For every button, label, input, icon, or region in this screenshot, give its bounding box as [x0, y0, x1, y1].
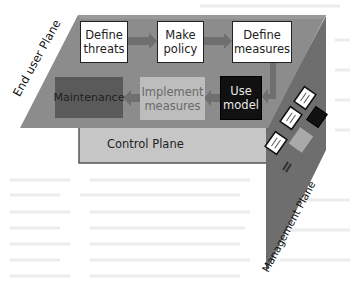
arrow-policy-measures: [204, 37, 225, 45]
arrow-measures-usemodel: [270, 63, 276, 99]
arrow-usemodel-implement: [210, 94, 220, 102]
end-user-plane-top-edge: [78, 15, 326, 19]
node-maintenance: Maintenance: [55, 77, 123, 118]
diagram-canvas: Define threats Make policy Define measur…: [0, 0, 354, 289]
arrow-threats-policy: [128, 37, 150, 45]
control-plane-label: Control Plane: [107, 137, 184, 151]
node-define-threats: Define threats: [80, 21, 128, 63]
node-define-measures: Define measures: [232, 21, 292, 63]
node-implement-measures: Implement measures: [140, 77, 205, 120]
node-use-model: Use model: [220, 76, 262, 120]
arrow-implement-maintenance: [130, 94, 140, 102]
node-make-policy: Make policy: [157, 21, 204, 63]
